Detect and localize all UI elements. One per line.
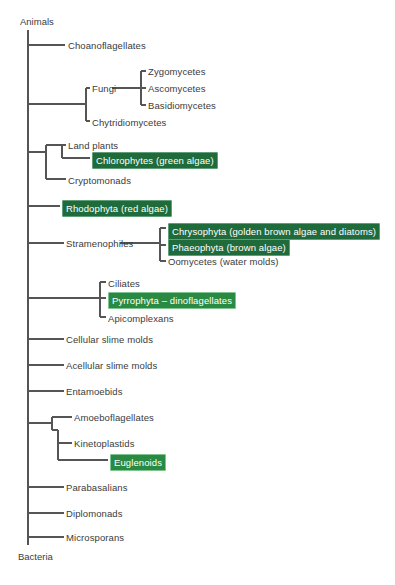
taxon-label-chytridiomycetes: Chytridiomycetes xyxy=(92,117,166,128)
taxon-label-diplomonads: Diplomonads xyxy=(66,508,123,519)
taxon-label-entamoebids: Entamoebids xyxy=(66,386,123,397)
taxon-label-land-plants: Land plants xyxy=(68,140,118,151)
taxon-label-stramenophiles: Stramenophiles xyxy=(66,238,133,249)
taxon-label-ascomycetes: Ascomycetes xyxy=(148,83,206,94)
root-label-animals: Animals xyxy=(20,16,54,27)
phylogenetic-tree-diagram: Animals Bacteria ChoanoflagellatesZygomy… xyxy=(0,0,395,585)
taxon-label-oomycetes: Oomycetes (water molds) xyxy=(168,256,279,267)
taxon-label-phaeophyta: Phaeophyta (brown algae) xyxy=(168,239,290,256)
taxon-label-rhodophyta: Rhodophyta (red algae) xyxy=(62,200,172,217)
taxon-label-fungi: Fungi xyxy=(92,83,116,94)
taxon-label-microsporans: Microsporans xyxy=(66,532,124,543)
taxon-label-acellular-slime: Acellular slime molds xyxy=(66,360,157,371)
taxon-label-basidiomycetes: Basidiomycetes xyxy=(148,100,216,111)
taxon-label-chrysophyta: Chrysophyta (golden brown algae and diat… xyxy=(168,223,380,240)
taxon-label-zygomycetes: Zygomycetes xyxy=(148,66,206,77)
taxon-label-apicomplexans: Apicomplexans xyxy=(108,313,174,324)
taxon-label-cryptomonads: Cryptomonads xyxy=(68,175,131,186)
taxon-label-parabasalians: Parabasalians xyxy=(66,482,128,493)
root-label-bacteria: Bacteria xyxy=(18,551,53,562)
taxon-label-choanoflagellates: Choanoflagellates xyxy=(68,40,146,51)
taxon-label-chlorophytes: Chlorophytes (green algae) xyxy=(92,152,218,169)
taxon-label-kinetoplastids: Kinetoplastids xyxy=(74,438,135,449)
taxon-label-euglenoids: Euglenoids xyxy=(110,454,166,471)
taxon-label-amoeboflagellates: Amoeboflagellates xyxy=(74,412,154,423)
taxon-label-ciliates: Ciliates xyxy=(108,278,140,289)
taxon-label-cellular-slime: Cellular slime molds xyxy=(66,334,153,345)
taxon-label-pyrrophyta: Pyrrophyta – dinoflagellates xyxy=(108,292,236,309)
